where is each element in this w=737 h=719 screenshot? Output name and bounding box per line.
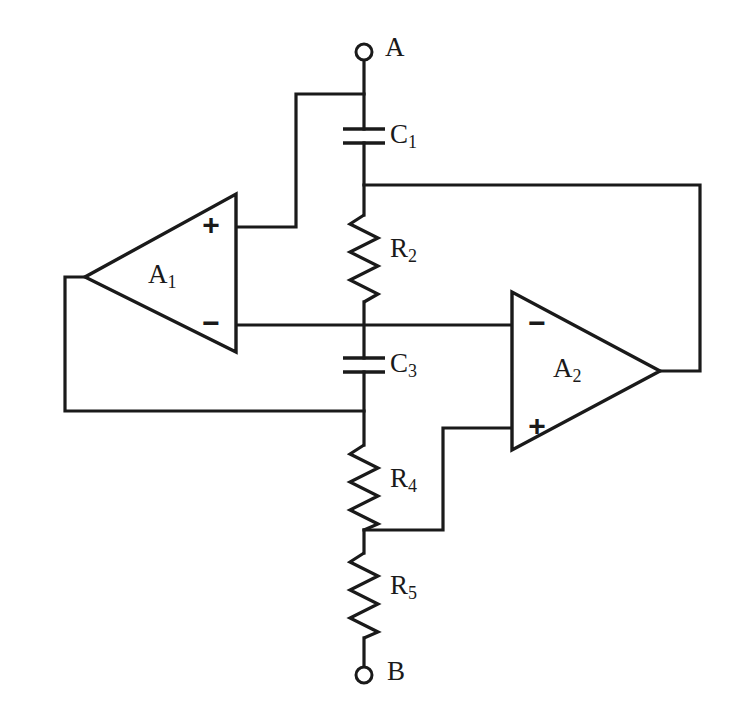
wire-a1-plus-to-node-a <box>236 94 364 227</box>
component-label-r5-text: R <box>390 570 408 600</box>
opamp-a2-label-subscript: 2 <box>573 366 582 386</box>
opamp-a2-plus-sign: + <box>528 409 546 442</box>
terminal-a: A <box>356 32 405 62</box>
component-label-c3-text: C <box>390 348 408 378</box>
component-label-c1-text: C <box>390 119 408 149</box>
resistor-r2 <box>350 215 378 302</box>
opamp-a1-plus-sign: + <box>202 208 220 241</box>
opamp-a1-minus-sign: − <box>202 306 220 339</box>
component-label-r4-subscript: 4 <box>408 476 417 496</box>
resistor-r2-zigzag <box>350 215 378 302</box>
component-label-c1-subscript: 1 <box>408 132 417 152</box>
resistor-r5 <box>350 553 378 638</box>
component-label-r4: R4 <box>390 463 417 496</box>
circuit-schematic: + − A1 − + A2 A B C1 R2 C3 R4 R5 <box>0 0 737 719</box>
opamp-a1: + − A1 <box>85 194 236 352</box>
component-label-r4-text: R <box>390 463 408 493</box>
terminal-b-circle <box>356 667 372 683</box>
component-label-r2-text: R <box>390 233 408 263</box>
component-label-c3: C3 <box>390 348 417 381</box>
resistor-r4 <box>350 445 378 530</box>
component-label-c1: C1 <box>390 119 417 152</box>
opamp-a1-label-subscript: 1 <box>168 272 177 292</box>
opamp-a2-label-text: A <box>553 353 573 383</box>
opamp-a2-minus-sign: − <box>528 306 546 339</box>
opamp-a1-label-text: A <box>148 259 168 289</box>
capacitor-c1 <box>343 129 385 143</box>
component-label-r2-subscript: 2 <box>408 246 417 266</box>
opamp-a2: − + A2 <box>512 292 660 450</box>
capacitor-c3 <box>343 358 385 372</box>
terminal-a-label: A <box>385 32 405 62</box>
terminal-a-circle <box>356 44 372 60</box>
component-label-c3-subscript: 3 <box>408 361 417 381</box>
component-label-r5: R5 <box>390 570 417 603</box>
wire-r4r5-node-to-a2-plus <box>364 428 512 530</box>
component-label-r2: R2 <box>390 233 417 266</box>
resistor-r5-zigzag <box>350 553 378 638</box>
schematic-canvas: + − A1 − + A2 A B C1 R2 C3 R4 R5 <box>0 0 737 719</box>
terminal-b-label: B <box>387 656 405 686</box>
resistor-r4-zigzag <box>350 445 378 530</box>
component-label-r5-subscript: 5 <box>408 583 417 603</box>
